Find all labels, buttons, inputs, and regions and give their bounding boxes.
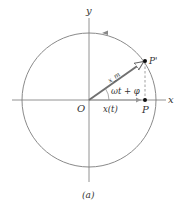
- angle-label: ωt + φ: [111, 86, 140, 96]
- projection-label: x(t): [103, 104, 118, 114]
- origin-label: O: [77, 103, 85, 114]
- point-p-prime-dot: [143, 59, 147, 63]
- y-axis-label: y: [85, 5, 92, 16]
- point-p-label: P: [141, 104, 149, 115]
- phasor-diagram: y x O P P' x_m ωt + φ x(t) (a): [0, 0, 185, 204]
- angle-arc: [106, 89, 110, 100]
- point-p-dot: [143, 98, 147, 102]
- x-axis-label: x: [168, 94, 174, 105]
- figure-caption: (a): [82, 190, 95, 200]
- point-p-prime-label: P': [148, 56, 158, 66]
